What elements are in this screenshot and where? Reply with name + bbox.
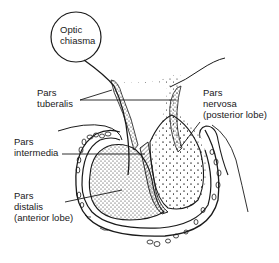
label-optic-chiasma: Optic chiasma — [60, 24, 95, 46]
label-pars-nervosa: Pars nervosa (posterior lobe) — [203, 87, 267, 120]
pituitary-diagram — [0, 0, 279, 263]
label-pars-intermedia: Pars intermedia — [14, 136, 58, 158]
label-pars-distalis: Pars distalis (anterior lobe) — [14, 190, 73, 223]
hypothalamus-floor — [170, 58, 225, 87]
pars-tuberalis-left — [111, 80, 138, 150]
leader-tuberalis-left — [80, 90, 112, 100]
label-pars-tuberalis: Pars tuberalis — [37, 87, 73, 109]
